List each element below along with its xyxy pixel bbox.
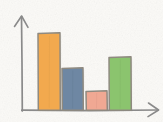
bar-3-salmon[interactable] (86, 91, 108, 112)
bar-chart-sketch (0, 0, 163, 122)
bar-2-blue[interactable] (62, 68, 84, 112)
bar-1-orange[interactable] (38, 33, 61, 112)
chart-canvas (0, 0, 163, 122)
y-axis-line (22, 17, 23, 112)
bar-4-green[interactable] (109, 57, 132, 112)
